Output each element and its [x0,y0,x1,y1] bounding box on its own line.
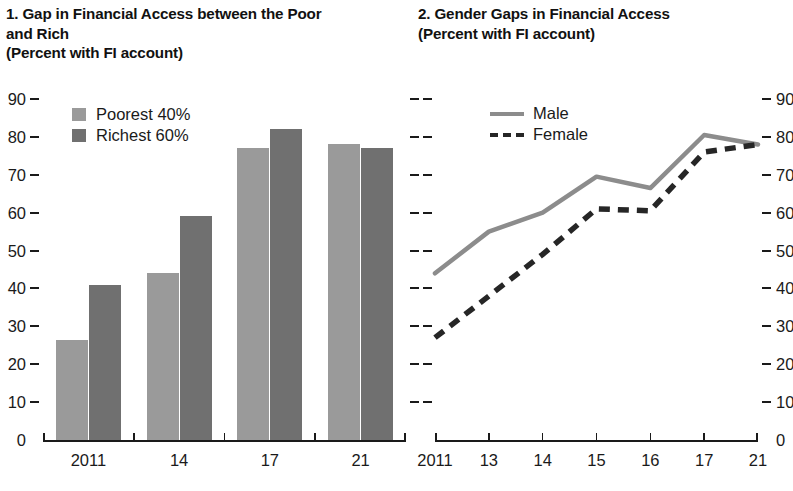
x-tick-label: 2011 [48,452,128,469]
y-tick-mark [30,174,39,176]
y-tick-mark-right [762,325,771,327]
y-tick-mark-right [762,98,771,100]
y-tick-mark [30,287,39,289]
y-tick-label: 80 [776,129,793,146]
x-tick-label: 21 [718,452,793,469]
x-axis-left-cap-2 [435,433,437,442]
y-tick-label: 30 [776,318,793,335]
y-tick-mark [30,98,39,100]
bar-richest-60-17 [270,129,302,440]
y-tick-label: 40 [0,280,26,297]
x-tick-mark [596,433,598,440]
panel-2-title: 2. Gender Gaps in Financial Access (Perc… [418,4,790,43]
figure-container: 1. Gap in Financial Access between the P… [0,0,793,491]
y-tick-mark [30,325,39,327]
panel-line-chart: 2. Gender Gaps in Financial Access (Perc… [415,0,793,491]
x-tick-label: 17 [230,452,310,469]
y-tick-mark [30,212,39,214]
y-tick-mark-left [423,325,432,327]
y-tick-label: 30 [0,318,26,335]
y-tick-mark-left [423,98,432,100]
y-tick-label: 60 [0,205,26,222]
y-tick-label: 50 [776,243,793,260]
y-tick-label: 90 [776,91,793,108]
y-tick-mark-right [762,363,771,365]
y-tick-mark-right [762,401,771,403]
x-tick-mark [133,433,135,440]
x-axis-line-line-chart [435,440,758,442]
y-tick-mark-left [423,136,432,138]
y-tick-label: 20 [0,356,26,373]
bar-richest-60-21 [361,148,393,440]
x-tick-label: 21 [321,452,401,469]
x-axis-line-bar-chart [43,440,406,442]
y-tick-label: 20 [776,356,793,373]
y-tick-label: 50 [0,243,26,260]
y-tick-label: 0 [776,432,785,449]
y-tick-mark-left [423,287,432,289]
y-tick-mark [30,136,39,138]
y-tick-mark [30,250,39,252]
x-tick-mark [488,433,490,440]
bar-poorest-40-21 [328,144,360,440]
y-tick-label: 10 [776,394,793,411]
x-axis-right-cap [404,433,406,442]
y-tick-mark-left [423,212,432,214]
x-axis-right-cap-2 [756,433,758,442]
y-tick-label: 70 [776,167,793,184]
bar-richest-60-2011 [89,285,121,440]
x-axis-left-cap [43,433,45,442]
x-tick-mark [703,433,705,440]
y-tick-label: 80 [0,129,26,146]
line-series-female [435,144,758,337]
y-tick-label: 60 [776,205,793,222]
x-tick-mark [650,433,652,440]
y-tick-mark-left [423,250,432,252]
bar-poorest-40-14 [147,273,179,440]
x-tick-mark [224,433,226,440]
y-tick-mark-left [423,401,432,403]
plot-area-bar-chart [43,99,406,440]
panel-1-title: 1. Gap in Financial Access between the P… [6,4,406,63]
y-tick-label: 0 [0,432,26,449]
y-tick-mark-right [762,287,771,289]
y-tick-label: 70 [0,167,26,184]
y-tick-mark [30,363,39,365]
y-tick-mark-right [762,174,771,176]
y-tick-mark-right [762,212,771,214]
line-series-male [435,135,758,273]
bar-poorest-40-2011 [56,340,88,440]
y-tick-label: 90 [0,91,26,108]
x-tick-mark [542,433,544,440]
x-tick-label: 14 [139,452,219,469]
y-tick-mark-left [423,363,432,365]
y-tick-mark-right [762,250,771,252]
plot-area-line-chart [435,99,758,440]
y-tick-label: 40 [776,280,793,297]
panel-bar-chart: 1. Gap in Financial Access between the P… [0,0,415,491]
y-tick-mark [30,401,39,403]
bar-poorest-40-17 [237,148,269,440]
line-series-group [435,99,758,440]
y-tick-mark-right [762,136,771,138]
y-tick-mark-left [423,174,432,176]
x-tick-mark [314,433,316,440]
y-tick-label: 10 [0,394,26,411]
bar-richest-60-14 [180,216,212,440]
